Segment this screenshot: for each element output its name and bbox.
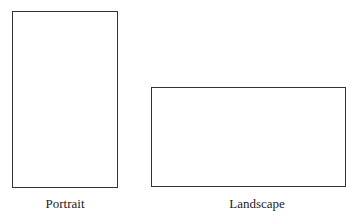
portrait-label: Portrait bbox=[5, 196, 125, 212]
portrait-rectangle bbox=[12, 11, 118, 188]
landscape-label: Landscape bbox=[197, 196, 317, 212]
landscape-rectangle bbox=[151, 87, 346, 187]
